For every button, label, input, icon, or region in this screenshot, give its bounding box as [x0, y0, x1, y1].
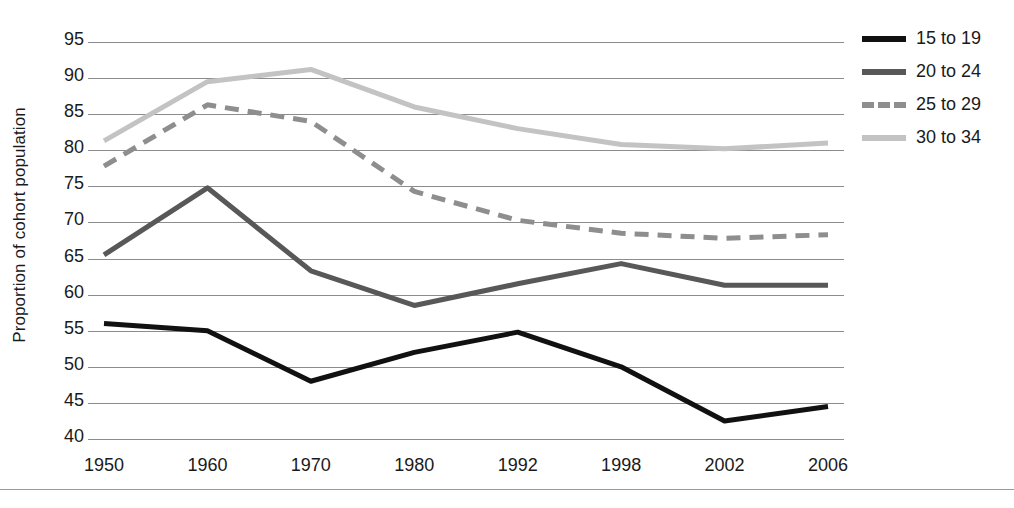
series-line-25-to-29 [104, 105, 828, 239]
y-tick-label: 95 [44, 29, 84, 53]
x-axis-tick-labels: 19501960197019801992199820022006 [0, 455, 1014, 485]
gridlines [88, 43, 844, 440]
y-tick-label: 45 [44, 390, 84, 414]
y-tick-label: 65 [44, 246, 84, 270]
x-tick-label: 1980 [394, 455, 434, 476]
line-chart-svg [88, 20, 844, 445]
y-tick-label: 50 [44, 354, 84, 378]
x-tick-label: 1970 [291, 455, 331, 476]
series-line-30-to-34 [104, 69, 828, 148]
legend-swatch-icon [862, 131, 906, 145]
legend-swatch-icon [862, 98, 906, 112]
legend-label: 15 to 19 [916, 28, 981, 49]
y-axis-title-text: Proportion of cohort population [10, 107, 30, 343]
series-line-15-to-19 [104, 324, 828, 421]
x-tick-label: 1998 [601, 455, 641, 476]
y-tick-label: 90 [44, 65, 84, 89]
legend-label: 25 to 29 [916, 94, 981, 115]
y-axis-tick-labels: 959085807570656055504540 [38, 0, 84, 450]
y-tick-label: 85 [44, 101, 84, 125]
y-tick-label: 80 [44, 137, 84, 161]
y-tick-label: 40 [44, 426, 84, 450]
legend-item-25-to-29[interactable]: 25 to 29 [862, 88, 1012, 121]
legend-item-30-to-34[interactable]: 30 to 34 [862, 121, 1012, 154]
chart-figure: Proportion of cohort population 95908580… [0, 0, 1014, 508]
x-tick-label: 1960 [187, 455, 227, 476]
legend-item-20-to-24[interactable]: 20 to 24 [862, 55, 1012, 88]
legend-item-15-to-19[interactable]: 15 to 19 [862, 22, 1012, 55]
chart-legend: 15 to 1920 to 2425 to 2930 to 34 [862, 22, 1012, 154]
legend-label: 20 to 24 [916, 61, 981, 82]
y-axis-title: Proportion of cohort population [0, 0, 40, 450]
legend-label: 30 to 34 [916, 127, 981, 148]
legend-swatch-icon [862, 32, 906, 46]
y-tick-label: 55 [44, 318, 84, 342]
series-lines [104, 69, 828, 421]
y-tick-label: 75 [44, 173, 84, 197]
legend-swatch-icon [862, 65, 906, 79]
x-tick-label: 2006 [808, 455, 848, 476]
x-tick-label: 1992 [498, 455, 538, 476]
y-tick-label: 70 [44, 209, 84, 233]
bottom-divider-rule [0, 489, 1014, 490]
y-tick-label: 60 [44, 282, 84, 306]
plot-area [88, 20, 844, 445]
x-tick-label: 1950 [84, 455, 124, 476]
x-tick-label: 2002 [705, 455, 745, 476]
